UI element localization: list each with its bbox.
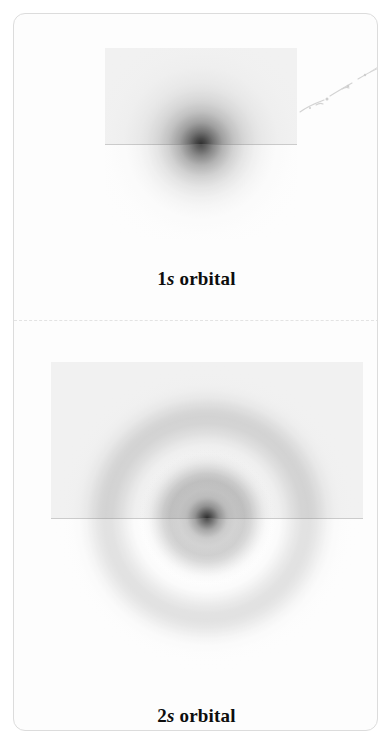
orbital-label-1s-shell: s <box>167 268 175 289</box>
orbital-panel-1s: 1s orbital <box>14 14 378 320</box>
orbital-figure-card: 1s orbital 2s orbital <box>13 13 378 731</box>
scan-artifact-smudge <box>286 56 378 118</box>
orbital-label-1s-suffix: orbital <box>175 268 236 289</box>
orbital-label-1s: 1s orbital <box>14 268 378 290</box>
orbital-label-2s-shell: s <box>167 705 175 726</box>
cut-plane-lower-2s <box>51 518 363 674</box>
orbital-panel-2s: 2s orbital <box>14 321 378 731</box>
orbital-label-2s-suffix: orbital <box>175 705 236 726</box>
cut-plane-lower-1s <box>105 144 297 240</box>
orbital-cloud-2s <box>51 362 363 674</box>
orbital-label-1s-number: 1 <box>157 268 167 289</box>
orbital-label-2s-number: 2 <box>157 705 167 726</box>
cut-plane-line-2s <box>51 518 363 519</box>
cut-plane-line-1s <box>105 144 297 145</box>
cut-plane-upper-2s <box>51 362 363 518</box>
orbital-label-2s: 2s orbital <box>14 705 378 727</box>
orbital-cloud-1s <box>105 48 297 240</box>
cut-plane-upper-1s <box>105 48 297 144</box>
